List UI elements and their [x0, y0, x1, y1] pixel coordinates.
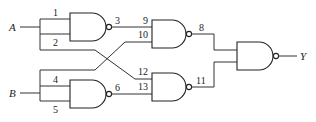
pin-label-1: 1 [53, 7, 58, 18]
pin-label-6: 6 [115, 82, 120, 93]
input-label-b: B [9, 87, 16, 99]
pin-label-13: 13 [138, 81, 148, 92]
pin-label-5: 5 [53, 104, 58, 115]
pin-label-3: 3 [115, 15, 120, 26]
logic-circuit-diagram: A B Y 1 2 3 4 5 6 9 10 8 12 13 11 [0, 0, 316, 122]
nand-gate-g3 [152, 20, 237, 50]
nand-gate-g4 [152, 62, 237, 101]
pin-label-10: 10 [138, 29, 148, 40]
output-label-y: Y [300, 50, 308, 62]
input-label-a: A [8, 21, 16, 33]
nand-gate-g5 [237, 42, 297, 70]
pin-label-12: 12 [138, 66, 148, 77]
pin-label-9: 9 [143, 15, 148, 26]
pin-label-8: 8 [199, 22, 204, 33]
pin-label-11: 11 [196, 75, 206, 86]
circuit-canvas: A B Y 1 2 3 4 5 6 9 10 8 12 13 11 [0, 0, 316, 122]
pin-label-2: 2 [53, 37, 58, 48]
pin-label-4: 4 [53, 74, 58, 85]
